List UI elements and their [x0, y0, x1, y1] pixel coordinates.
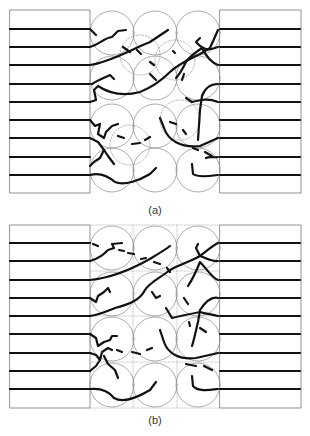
left-bars-a — [10, 29, 90, 175]
panel-a — [10, 10, 301, 193]
panel-a-label: (a) — [135, 204, 175, 216]
conductive-paths-b — [90, 243, 218, 400]
left-bars-b — [10, 243, 90, 389]
right-bars-a — [220, 29, 300, 175]
right-bars-b — [220, 243, 300, 389]
conductive-paths-a — [90, 29, 218, 183]
diagram-canvas — [0, 0, 310, 436]
panel-b — [10, 225, 301, 408]
panel-b-label: (b) — [135, 414, 175, 426]
particles-b — [90, 226, 220, 407]
grid-b — [90, 225, 220, 408]
